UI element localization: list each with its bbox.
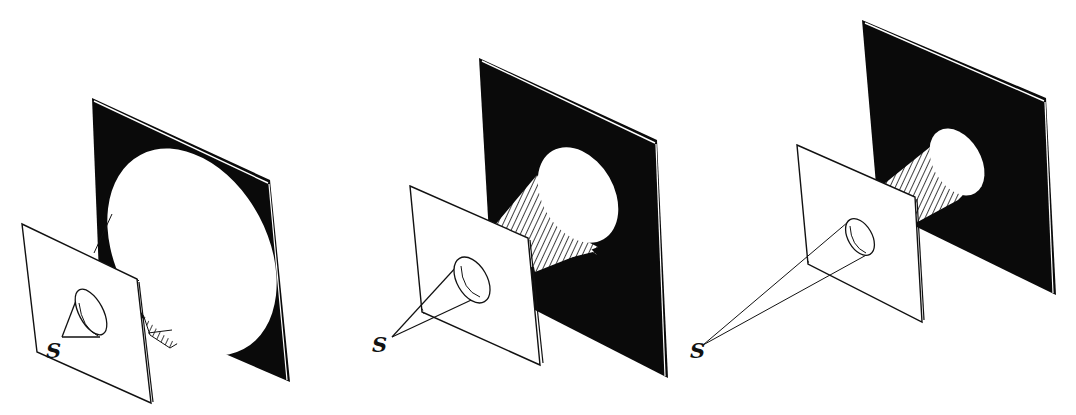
shadow-projection-figure: S S	[0, 0, 1076, 415]
panel-2: S	[372, 58, 668, 378]
source-label-s: S	[46, 338, 61, 363]
source-label-s: S	[690, 338, 705, 363]
panel-3: S	[690, 20, 1056, 363]
source-label-s: S	[372, 332, 387, 357]
panel-1: S	[22, 98, 311, 403]
